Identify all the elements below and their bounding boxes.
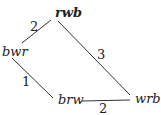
node-bwr: bwr <box>2 44 28 59</box>
graph-diagram: rwb bwr brw wrb 2 3 1 2 <box>0 0 161 115</box>
edge-label-rwb-wrb: 3 <box>97 47 105 62</box>
node-brw: brw <box>58 92 84 107</box>
node-wrb: wrb <box>135 91 161 106</box>
edge-label-bwr-brw: 1 <box>22 74 30 89</box>
edge-label-brw-wrb: 2 <box>99 101 107 115</box>
edge-rwb-wrb <box>58 21 130 95</box>
edge-label-rwb-bwr: 2 <box>30 19 38 34</box>
node-rwb: rwb <box>55 5 82 20</box>
edge-bwr-brw <box>12 58 53 98</box>
